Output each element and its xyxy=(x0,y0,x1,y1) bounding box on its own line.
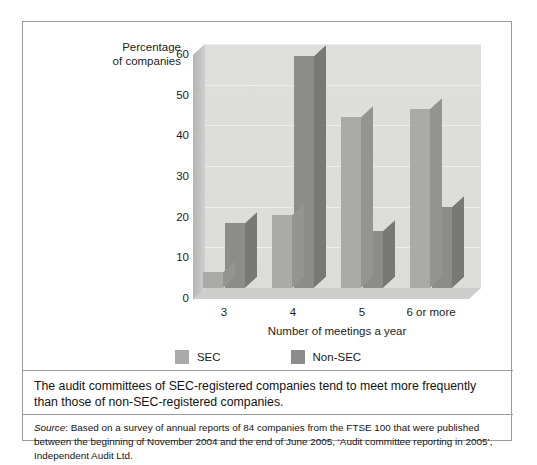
bar-sec-4[interactable] xyxy=(272,215,292,288)
y-tick-label: 60 xyxy=(163,48,189,60)
y-tick-label: 50 xyxy=(163,89,189,101)
source-prefix: Source xyxy=(34,422,65,433)
bar-side xyxy=(292,204,304,288)
legend-label: Non-SEC xyxy=(313,351,362,363)
x-tick-label: 6 or more xyxy=(396,306,466,318)
bar-face xyxy=(410,109,430,288)
y-axis-tick-labels: 0102030405060 xyxy=(155,44,189,299)
y-tick-label: 20 xyxy=(163,211,189,223)
bar-side xyxy=(452,196,464,288)
gridline xyxy=(205,44,481,45)
figure-caption: The audit committees of SEC-registered c… xyxy=(23,371,513,414)
bar-face xyxy=(272,215,292,288)
caption-block: The audit committees of SEC-registered c… xyxy=(23,370,513,465)
x-tick-label: 5 xyxy=(327,306,397,318)
x-tick-label: 3 xyxy=(189,306,259,318)
plot-body: 3456 or more xyxy=(193,44,481,299)
y-tick-label: 10 xyxy=(163,251,189,263)
bar-face xyxy=(341,117,361,288)
bar-side xyxy=(383,220,395,288)
legend-swatch xyxy=(175,350,189,364)
plot-floor xyxy=(193,288,481,299)
bar-side xyxy=(245,212,257,288)
y-tick-label: 40 xyxy=(163,129,189,141)
y-tick-label: 0 xyxy=(163,292,189,304)
legend-label: SEC xyxy=(197,351,221,363)
legend-item-sec[interactable]: SEC xyxy=(175,350,221,364)
y-tick-label: 30 xyxy=(163,170,189,182)
bar-sec-6-or-more[interactable] xyxy=(410,109,430,288)
bar-side xyxy=(314,45,326,288)
legend-item-nonsec[interactable]: Non-SEC xyxy=(291,350,362,364)
chart-area: Percentage of companies 0102030405060 34… xyxy=(23,22,511,370)
x-axis-label: Number of meetings a year xyxy=(193,325,481,337)
bar-face xyxy=(203,272,223,288)
source-body: : Based on a survey of annual reports of… xyxy=(34,422,492,461)
x-tick-label: 4 xyxy=(258,306,328,318)
bar-sec-3[interactable] xyxy=(203,272,223,288)
bar-side xyxy=(430,98,442,288)
figure-source: Source: Based on a survey of annual repo… xyxy=(23,414,513,465)
bar-sec-5[interactable] xyxy=(341,117,361,288)
chart-legend: SECNon-SEC xyxy=(23,350,513,364)
bar-side xyxy=(361,106,373,288)
legend-swatch xyxy=(291,350,305,364)
gridline xyxy=(205,85,481,86)
figure-panel: Percentage of companies 0102030405060 34… xyxy=(22,21,512,441)
